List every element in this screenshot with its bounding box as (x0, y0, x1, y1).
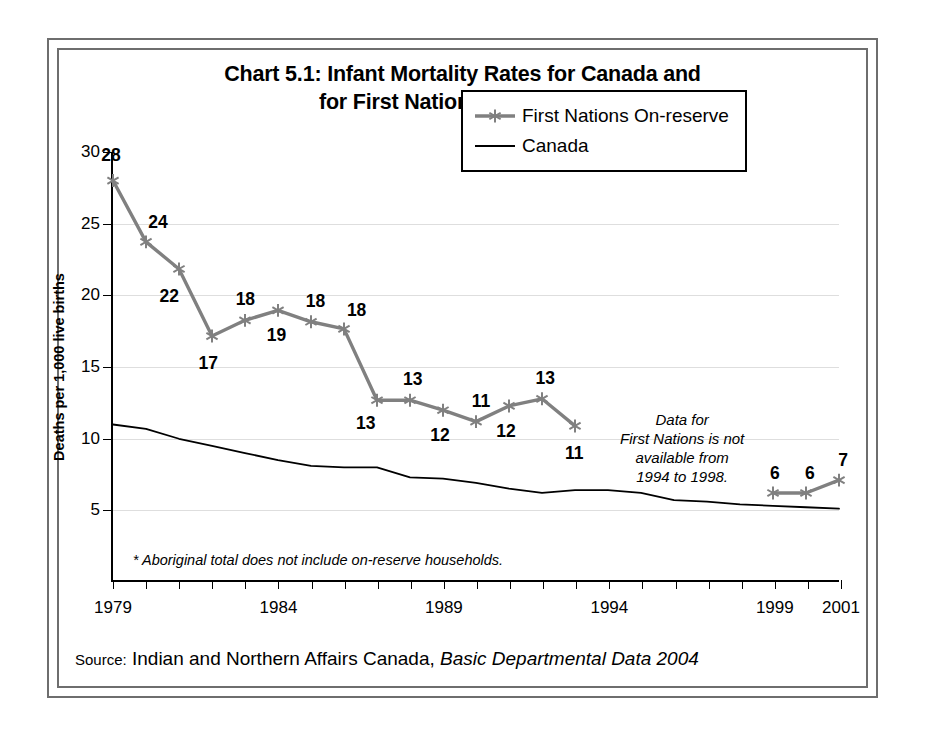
y-axis-tick-label: 10 (81, 429, 100, 449)
x-axis-tick (510, 580, 511, 589)
footnote: * Aboriginal total does not include on-r… (133, 552, 503, 568)
plot-area: 51015202530 197919841989199419992001 282… (111, 152, 839, 582)
x-axis-tick (642, 580, 643, 589)
data-point-label: 13 (403, 369, 422, 390)
x-axis-tick-label: 1994 (590, 598, 628, 618)
x-axis-tick (775, 580, 776, 589)
plot-wrapper: Deaths per 1,000 live births 51015202530… (111, 152, 839, 582)
data-point-label: 13 (535, 367, 554, 388)
x-axis-tick (113, 580, 114, 589)
chart-legend: First Nations On-reserveCanada (461, 90, 747, 172)
y-axis-tick-label: 30 (81, 142, 100, 162)
source-label: Source: (75, 651, 127, 668)
y-axis-tick-label: 20 (81, 285, 100, 305)
x-axis-tick-label: 1979 (94, 598, 132, 618)
data-point-label: 17 (199, 352, 218, 373)
x-axis-tick (742, 580, 743, 589)
no-data-annotation: Data for First Nations is not available … (604, 410, 760, 486)
x-axis-tick-label: 1989 (425, 598, 463, 618)
y-axis-tick-label: 5 (91, 500, 100, 520)
x-axis-tick (278, 580, 279, 589)
x-axis-tick (179, 580, 180, 589)
x-axis-tick (609, 580, 610, 589)
x-axis-tick (709, 580, 710, 589)
x-axis-tick (676, 580, 677, 589)
data-point-label: 12 (496, 421, 515, 442)
x-axis-tick-label: 1999 (756, 598, 794, 618)
data-point-label: 6 (770, 462, 780, 483)
y-axis-tick (103, 510, 113, 511)
data-point-label: 22 (159, 285, 178, 306)
y-axis-tick-label: 15 (81, 357, 100, 377)
y-axis-tick (103, 295, 113, 296)
x-axis-tick (576, 580, 577, 589)
x-axis-tick (808, 580, 809, 589)
x-axis-tick (312, 580, 313, 589)
source-organization: Indian and Northern Affairs Canada, (127, 648, 440, 669)
x-axis-tick (345, 580, 346, 589)
y-axis-title: Deaths per 1,000 live births (51, 273, 67, 461)
data-point-label: 18 (306, 290, 325, 311)
data-point-label: 24 (148, 212, 167, 233)
x-axis-tick (212, 580, 213, 589)
data-point-label: 28 (101, 144, 120, 165)
x-axis-tick (444, 580, 445, 589)
legend-item: First Nations On-reserve (473, 101, 729, 131)
x-axis-tick (378, 580, 379, 589)
series-plot (113, 152, 839, 580)
data-point-label: 7 (838, 449, 848, 470)
x-axis-tick (146, 580, 147, 589)
y-axis-tick (103, 439, 113, 440)
series-line (113, 181, 575, 426)
data-point-label: 13 (356, 413, 375, 434)
legend-swatch (473, 137, 517, 155)
x-axis-tick-label: 2001 (822, 598, 860, 618)
data-point-label: 6 (805, 462, 815, 483)
source-line: Source: Indian and Northern Affairs Cana… (75, 648, 699, 670)
data-point-label: 11 (472, 390, 491, 411)
y-axis-tick-label: 25 (81, 214, 100, 234)
data-point-label: 12 (430, 425, 449, 446)
x-axis-tick-label: 1984 (260, 598, 298, 618)
chart-outer-frame: Chart 5.1: Infant Mortality Rates for Ca… (47, 38, 878, 698)
data-point-label: 19 (267, 325, 286, 346)
legend-item: Canada (473, 131, 729, 161)
x-axis-tick (841, 580, 842, 589)
data-point-label: 18 (236, 289, 255, 310)
y-axis-tick (103, 224, 113, 225)
y-axis-tick (103, 367, 113, 368)
data-point-label: 11 (565, 443, 584, 464)
legend-label: First Nations On-reserve (522, 105, 729, 127)
source-publication: Basic Departmental Data 2004 (440, 648, 699, 669)
x-axis-tick (477, 580, 478, 589)
legend-swatch (473, 107, 517, 125)
x-axis-tick (245, 580, 246, 589)
legend-label: Canada (522, 135, 589, 157)
x-axis-tick (543, 580, 544, 589)
data-point-label: 18 (347, 299, 366, 320)
x-axis-tick (411, 580, 412, 589)
